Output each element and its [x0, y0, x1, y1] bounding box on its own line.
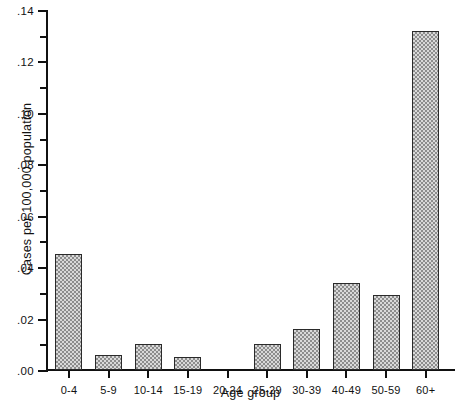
bar — [55, 254, 82, 370]
y-tick-minor — [40, 36, 48, 38]
bar — [293, 329, 320, 370]
bar — [373, 295, 400, 370]
y-tick-major — [38, 164, 48, 166]
y-tick-minor — [40, 293, 48, 295]
x-tick — [306, 370, 308, 378]
y-tick-label: .02 — [17, 314, 34, 326]
x-tick — [227, 370, 229, 378]
y-tick-label: .00 — [17, 365, 34, 377]
y-tick-minor — [40, 190, 48, 192]
bar-chart: Cases per 100,000 population .00.02.04.0… — [0, 0, 467, 407]
x-tick — [187, 370, 189, 378]
y-tick-label: .14 — [17, 5, 34, 17]
bar — [174, 357, 201, 370]
x-tick — [266, 370, 268, 378]
x-tick — [425, 370, 427, 378]
y-tick-minor — [40, 87, 48, 89]
y-tick-label: .10 — [17, 108, 34, 120]
x-tick — [147, 370, 149, 378]
x-tick — [108, 370, 110, 378]
y-tick-minor — [40, 139, 48, 141]
y-tick-major — [38, 61, 48, 63]
y-tick-label: .06 — [17, 211, 34, 223]
bar — [412, 31, 439, 370]
y-tick-minor — [40, 344, 48, 346]
bar — [95, 355, 122, 370]
x-axis-title: Age group — [46, 386, 455, 400]
y-tick-major — [38, 319, 48, 321]
bar — [135, 344, 162, 370]
x-tick — [345, 370, 347, 378]
y-tick-major — [38, 216, 48, 218]
y-tick-label: .04 — [17, 262, 34, 274]
x-tick — [385, 370, 387, 378]
y-tick-minor — [40, 241, 48, 243]
y-tick-major — [38, 370, 48, 372]
bar — [333, 283, 360, 370]
y-tick-major — [38, 113, 48, 115]
y-tick-label: .08 — [17, 159, 34, 171]
y-tick-label: .12 — [17, 56, 34, 68]
plot-area: .00.02.04.06.08.10.12.14 0-45-910-1415-1… — [46, 11, 455, 371]
bar — [254, 344, 281, 370]
y-tick-major — [38, 267, 48, 269]
y-tick-major — [38, 10, 48, 12]
x-tick — [68, 370, 70, 378]
